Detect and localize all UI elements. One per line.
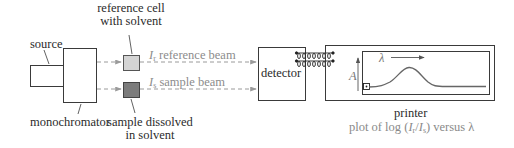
monochromator-box [64, 49, 97, 103]
reference-beam-text: reference beam [159, 48, 236, 62]
caption-prefix: plot of log ( [349, 120, 408, 134]
printer-label: printer [394, 107, 427, 119]
reference-cell-label-line1: reference cell [90, 2, 172, 14]
pen-tip-icon [366, 86, 368, 88]
reference-cell-label-line2: with solvent [90, 15, 172, 27]
absorbance-axis-label: A [349, 70, 357, 82]
sample-cell [124, 83, 140, 98]
reference-cell [124, 56, 140, 71]
printer-caption: plot of log (Ir/Is) versus λ [349, 121, 474, 137]
sample-beam-text: sample beam [159, 75, 225, 89]
source-label: source [30, 38, 63, 50]
reference-beam-label: Ir reference beam [149, 49, 236, 65]
sample-cell-label: sample dissolved in solvent [100, 116, 200, 141]
monochromator-label: monochromator [30, 116, 110, 128]
detector-label: detector [261, 67, 301, 79]
reference-cell-label: reference cell with solvent [90, 2, 172, 27]
source-leader [44, 50, 49, 64]
sample-beam-subscript: s [153, 81, 156, 90]
reference-beam-subscript: r [153, 54, 156, 63]
sample-cell-label-line2: in solvent [100, 129, 200, 141]
wavelength-axis-label: λ [379, 52, 384, 64]
sample-cell-leader [131, 99, 135, 113]
monochromator-leader [78, 104, 81, 114]
sample-cell-label-line1: sample dissolved [100, 116, 200, 128]
caption-suffix: ) versus λ [426, 120, 474, 134]
source-box [31, 66, 64, 87]
reference-cell-leader [129, 35, 132, 54]
sample-beam-label: Is sample beam [149, 76, 225, 92]
